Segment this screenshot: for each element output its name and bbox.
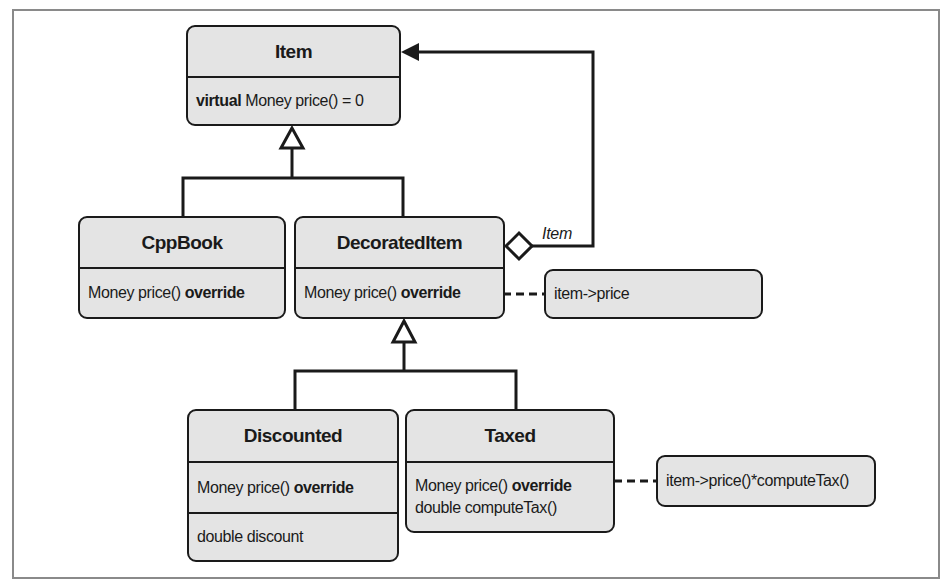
note-decorated-item-price: item->price	[544, 269, 763, 319]
association-label-item: Item	[542, 225, 572, 243]
class-taxed-name: Taxed	[407, 411, 613, 463]
method-line: virtual Money price() = 0	[196, 92, 391, 110]
inheritance-decorated-tree	[295, 321, 516, 411]
class-item-name: Item	[188, 27, 399, 78]
class-taxed: Taxed Money price() override double comp…	[405, 409, 615, 533]
class-discounted-fields: double discount	[189, 512, 397, 560]
class-taxed-methods: Money price() override double computeTax…	[407, 463, 613, 530]
class-cppbook: CppBook Money price() override	[78, 216, 286, 319]
field-line: double discount	[197, 528, 389, 546]
class-discounted: Discounted Money price() override double…	[187, 409, 399, 562]
class-decorated-item: DecoratedItem Money price() override	[294, 216, 505, 319]
class-discounted-name: Discounted	[189, 411, 397, 463]
method-line: Money price() override	[415, 475, 605, 497]
method-line: Money price() override	[197, 479, 389, 497]
class-item: Item virtual Money price() = 0	[186, 25, 401, 126]
method-line: Money price() override	[304, 284, 495, 302]
inheritance-item-tree	[183, 128, 403, 218]
class-cppbook-name: CppBook	[80, 218, 284, 269]
note-taxed-price: item->price()*computeTax()	[656, 455, 876, 507]
method-line: double computeTax()	[415, 497, 605, 519]
method-line: Money price() override	[88, 284, 276, 302]
class-discounted-methods: Money price() override	[189, 463, 397, 512]
class-decorated-item-name: DecoratedItem	[296, 218, 503, 269]
class-cppbook-methods: Money price() override	[80, 269, 284, 316]
class-decorated-item-methods: Money price() override	[296, 269, 503, 316]
class-item-methods: virtual Money price() = 0	[188, 78, 399, 123]
